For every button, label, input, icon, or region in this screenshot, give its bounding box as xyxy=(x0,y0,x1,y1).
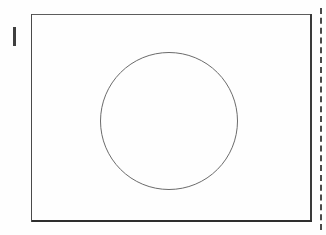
right-margin-dashed-rule xyxy=(320,8,322,230)
frame-top-edge xyxy=(31,14,312,15)
frame-right-edge xyxy=(310,14,312,222)
frame-bottom-edge xyxy=(31,220,312,222)
frame-left-edge xyxy=(31,14,32,222)
figure-canvas xyxy=(0,0,326,235)
circle-outline xyxy=(100,52,238,190)
left-tick-mark xyxy=(13,27,16,46)
